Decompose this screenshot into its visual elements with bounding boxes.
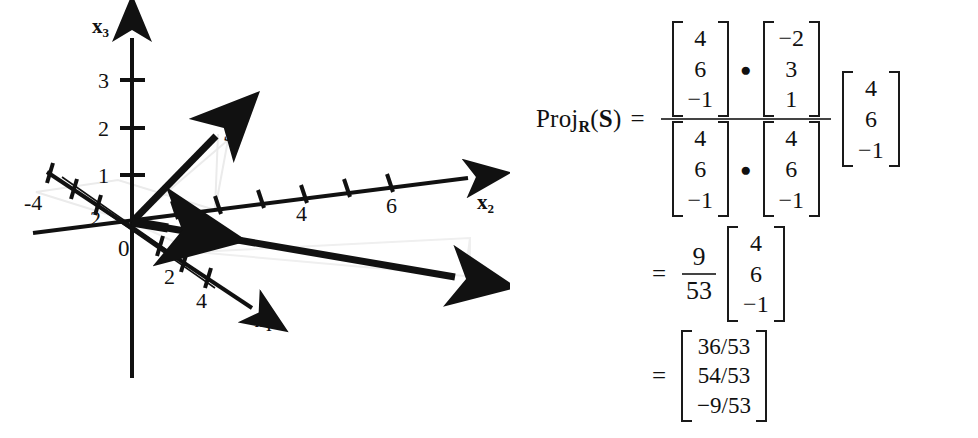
tick-label-x3-2: 2 [98, 118, 109, 140]
dot-product-icon: ● [740, 160, 751, 179]
axis-label-x3: x3 [92, 16, 109, 37]
bracket-right-icon [718, 21, 729, 117]
tick-label-x2-4: 4 [296, 203, 307, 225]
dot-product-icon: ● [740, 60, 751, 79]
bracket-right-icon [774, 226, 785, 322]
equals-sign-1: = [630, 105, 644, 133]
formula-panel: ProjR(S) = 4 6 −1 ● −2 [512, 0, 978, 438]
axis-label-x2: x2 [477, 192, 494, 213]
projection-vector-arrow [132, 222, 168, 228]
matrix-entry: 6 [785, 154, 797, 185]
matrix-entry: 3 [785, 54, 797, 85]
vector-label-r: R [470, 272, 484, 293]
bracket-right-icon [809, 21, 820, 117]
bracket-left-icon [672, 121, 683, 217]
matrix-entry: 6 [694, 154, 706, 185]
line2-vector: 4 6 −1 [727, 226, 785, 322]
trailing-direction-vector: 4 6 −1 [842, 71, 900, 167]
tick-label-x2-2: 2 [208, 226, 219, 248]
numerator-left-vector: 4 6 −1 [672, 21, 730, 117]
scalar-denominator: 53 [682, 275, 716, 307]
matrix-entry: −1 [858, 135, 884, 166]
matrix-entry: 4 [865, 73, 877, 104]
projection-expression: ProjR(S) [536, 105, 621, 133]
dot-product-fraction: 4 6 −1 ● −2 3 1 [661, 20, 832, 218]
matrix-entry: 4 [694, 123, 706, 154]
origin-label: 0 [118, 237, 130, 260]
tick-label-x3-3: 3 [98, 70, 109, 92]
denominator-right-vector: 4 6 −1 [763, 121, 821, 217]
matrix-entry: 54/53 [698, 361, 750, 390]
tick-label-x1-neg2: 2 [90, 208, 101, 230]
bracket-left-icon [672, 21, 683, 117]
matrix-entry: −1 [743, 289, 769, 320]
equation-line-2: = 9 53 4 6 −1 [652, 226, 790, 322]
bracket-right-icon [809, 121, 820, 217]
matrix-entry: −1 [688, 84, 714, 115]
matrix-entry: −1 [688, 185, 714, 216]
bracket-right-icon [889, 71, 900, 167]
matrix-entry: 1 [785, 84, 797, 115]
bracket-left-icon [681, 330, 692, 422]
axis-label-x1: x1 [255, 310, 272, 331]
equals-sign-3: = [652, 362, 666, 390]
tick-label-x2-6: 6 [386, 195, 397, 217]
tick-label-x3-1: 1 [98, 165, 109, 187]
matrix-entry: 6 [694, 54, 706, 85]
denominator-left-vector: 4 6 −1 [672, 121, 730, 217]
bracket-left-icon [727, 226, 738, 322]
axes-svg [0, 0, 510, 438]
bracket-left-icon [842, 71, 853, 167]
matrix-entry: 4 [750, 228, 762, 259]
matrix-entry: 36/53 [698, 332, 750, 361]
scalar-numerator: 9 [689, 241, 710, 273]
matrix-entry: −9/53 [697, 391, 751, 420]
equals-sign-2: = [652, 260, 666, 288]
result-vector: 36/53 54/53 −9/53 [681, 330, 767, 422]
numerator-right-vector: −2 3 1 [763, 21, 821, 117]
vector-label-s: S [224, 124, 236, 145]
matrix-entry: −1 [779, 185, 805, 216]
matrix-entry: 4 [694, 23, 706, 54]
matrix-entry: 6 [750, 259, 762, 290]
tick-label-x1-neg4: -4 [24, 192, 42, 214]
tick-label-x1-4: 4 [196, 290, 207, 312]
scalar-fraction: 9 53 [682, 241, 716, 307]
matrix-entry: −2 [779, 23, 805, 54]
bracket-left-icon [763, 121, 774, 217]
bracket-right-icon [756, 330, 767, 422]
matrix-entry: 6 [865, 104, 877, 135]
vector-diagram: x3 x2 x1 0 1 2 3 2 4 6 2 4 2 -4 S R [0, 0, 510, 438]
matrix-entry: 4 [785, 123, 797, 154]
equation-line-3: = 36/53 54/53 −9/53 [652, 330, 772, 422]
tick-label-x1-2: 2 [164, 266, 175, 288]
bracket-right-icon [718, 121, 729, 217]
bracket-left-icon [763, 21, 774, 117]
fraction-denominator: 4 6 −1 ● 4 6 −1 [661, 120, 832, 218]
fraction-numerator: 4 6 −1 ● −2 3 1 [661, 20, 832, 118]
equation-line-1: ProjR(S) = 4 6 −1 ● −2 [536, 20, 905, 218]
